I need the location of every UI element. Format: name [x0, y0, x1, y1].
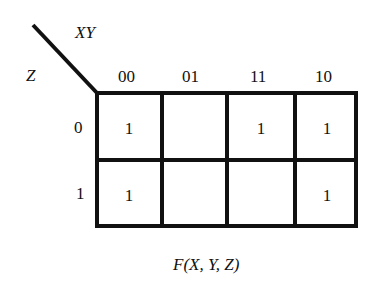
- column-header-10: 10: [315, 68, 332, 85]
- cell-z0-xy11: 1: [246, 119, 276, 139]
- grid-divider: [99, 158, 354, 162]
- column-header-01: 01: [182, 68, 199, 85]
- function-caption: F(X, Y, Z): [173, 256, 239, 273]
- row-variable-label: Z: [26, 67, 35, 84]
- cell-z1-xy10: 1: [312, 186, 342, 206]
- row-header-0: 0: [74, 119, 83, 136]
- cell-z0-xy00: 1: [114, 119, 144, 139]
- karnaugh-map-grid: 1 1 1 1 1: [95, 91, 358, 228]
- cell-z1-xy00: 1: [114, 186, 144, 206]
- column-header-00: 00: [118, 68, 135, 85]
- row-header-1: 1: [76, 185, 85, 202]
- column-header-11: 11: [250, 68, 266, 85]
- column-variable-label: XY: [75, 24, 95, 41]
- cell-z0-xy10: 1: [312, 119, 342, 139]
